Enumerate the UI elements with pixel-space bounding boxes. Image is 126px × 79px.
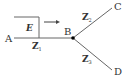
impedance-label-z1: Z1 [32, 41, 42, 52]
junction-node-b [71, 36, 75, 40]
arrow-right-icon [44, 20, 60, 24]
line-z2 [73, 8, 112, 38]
node-label-b: B [64, 26, 71, 37]
impedance-label-z3: Z3 [82, 54, 92, 65]
node-label-d: D [114, 66, 122, 77]
node-label-c: C [114, 1, 122, 12]
line-z3 [73, 38, 112, 70]
transmission-line-diagram: A B C D E Z1 Z2 Z3 [0, 0, 126, 79]
wave-label-e: E [25, 23, 33, 33]
impedance-label-z2: Z2 [82, 12, 92, 23]
node-label-a: A [4, 33, 13, 44]
